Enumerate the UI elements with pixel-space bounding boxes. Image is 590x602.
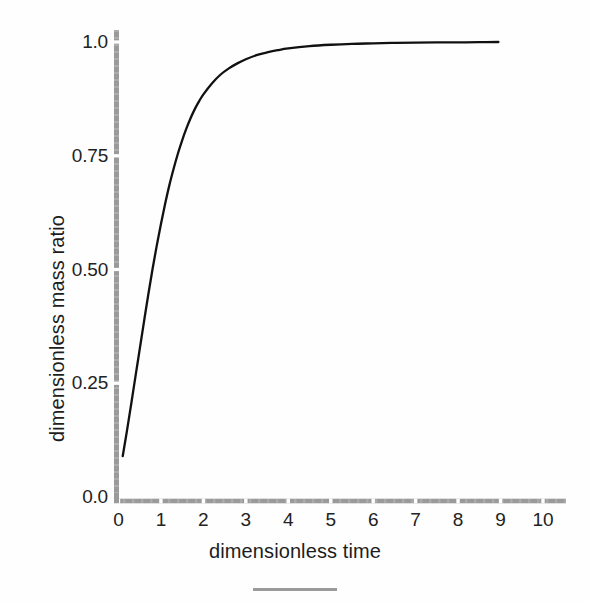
y-tick-label: 0.25 [72,373,108,392]
x-axis-title: dimensionless time [0,540,590,563]
y-tick-label: 0.75 [72,146,108,165]
data-series-line [123,42,499,456]
x-tick-label: 10 [513,510,573,529]
y-axis-title-wrapper: dimensionless mass ratio [14,0,54,602]
figure-panel: 0.00.250.500.751.0 012345678910 dimensio… [0,0,590,602]
y-tick-label: 0.50 [72,260,108,279]
y-tick-label: 0.0 [82,487,108,506]
footer-divider-rule [253,588,337,591]
y-axis-line [114,30,119,501]
y-axis-title: dimensionless mass ratio [46,215,69,442]
x-axis-line [114,493,567,503]
y-tick-label: 1.0 [82,32,108,51]
